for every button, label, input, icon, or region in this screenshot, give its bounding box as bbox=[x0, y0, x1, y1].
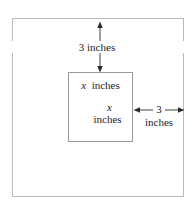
inner-square-side-label-secondary: x inches bbox=[68, 101, 133, 125]
top-dimension-label: 3 inches bbox=[0, 41, 196, 53]
right-dimension-value-text: 3 bbox=[153, 103, 165, 115]
inner-side-unit: inches bbox=[92, 79, 120, 91]
right-dimension-unit: inches bbox=[134, 116, 184, 128]
right-dimension-value: 3 bbox=[134, 103, 184, 115]
geometry-figure: 3 inches x inches x inches 3 inches bbox=[0, 0, 196, 208]
inner-side-unit-secondary: inches bbox=[82, 113, 133, 125]
inner-side-variable-secondary: x bbox=[82, 101, 133, 113]
inner-side-variable: x bbox=[81, 79, 86, 91]
right-dimension-unit-text: inches bbox=[145, 116, 173, 128]
top-dimension-text: 3 inches bbox=[77, 41, 117, 53]
inner-square-side-label: x inches bbox=[68, 79, 133, 91]
